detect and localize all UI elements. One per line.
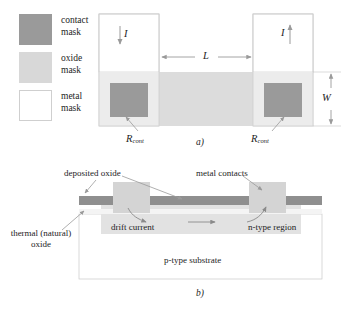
- contact-resistance-label-right: Rcont: [251, 133, 269, 144]
- deposited-oxide-leader-left: [85, 180, 96, 193]
- thermal-oxide-label-line1: thermal (natural): [11, 228, 72, 238]
- metal-contacts-label: metal contacts: [196, 168, 248, 179]
- metal-pad-overlay-right: [253, 14, 313, 72]
- oxide-mask-label-line1: oxide: [61, 53, 82, 65]
- contact-mask-square-left: [110, 83, 148, 117]
- metal-mask-label: metal mask: [61, 90, 82, 114]
- legend-item-oxide-mask: oxide mask: [19, 52, 111, 90]
- width-label: W: [322, 92, 331, 103]
- metal-contact-left: [113, 182, 150, 205]
- legend-item-metal-mask: metal mask: [19, 90, 111, 128]
- oxide-mask-label: oxide mask: [61, 52, 82, 76]
- contact-resistance-label-left: Rcont: [126, 133, 144, 144]
- n-type-region-label: n-type region: [248, 222, 296, 233]
- thermal-oxide-label-line2: oxide: [31, 239, 51, 249]
- deposited-oxide-label: deposited oxide: [64, 168, 121, 179]
- legend-item-contact-mask: contact mask: [19, 14, 111, 52]
- drift-current-label: drift current: [111, 222, 154, 233]
- contact-mask-square-right: [264, 83, 302, 117]
- current-label-right: I: [281, 27, 285, 38]
- contact-resistance-subscript-left: cont: [132, 137, 144, 144]
- metal-mask-label-line2: mask: [61, 103, 82, 115]
- n-type-region-rest: -type region: [253, 222, 297, 232]
- oxide-mask-label-line2: mask: [61, 65, 82, 77]
- current-label-left: I: [124, 28, 128, 39]
- caption-b: b): [196, 288, 204, 298]
- p-type-substrate-label: p-type substrate: [164, 255, 221, 266]
- contact-mask-label: contact mask: [61, 14, 88, 38]
- metal-mask-label-line1: metal: [61, 91, 82, 103]
- contact-mask-swatch: [19, 14, 52, 45]
- metal-contact-stem-right: [249, 205, 286, 213]
- metal-mask-swatch: [19, 90, 52, 121]
- metal-contact-right: [249, 182, 286, 205]
- contact-mask-label-line1: contact: [61, 15, 88, 27]
- metal-contact-stem-left: [113, 205, 150, 213]
- contact-mask-label-line2: mask: [61, 27, 88, 39]
- length-label: L: [203, 50, 209, 61]
- p-type-substrate-rest: -type substrate: [169, 255, 222, 265]
- thermal-oxide-label: thermal (natural) oxide: [10, 228, 72, 250]
- oxide-mask-swatch: [19, 52, 52, 83]
- mask-legend: contact mask oxide mask metal mask: [19, 14, 111, 128]
- contact-resistance-subscript-right: cont: [257, 137, 269, 144]
- figure-contact-resistance: contact mask oxide mask metal mask I I L…: [0, 0, 348, 311]
- caption-a: a): [196, 137, 204, 147]
